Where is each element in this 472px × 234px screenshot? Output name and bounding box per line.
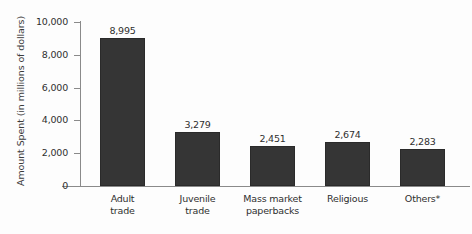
y-tick-label: 6,000 [0, 83, 68, 93]
x-axis-label-line: Others* [384, 193, 461, 205]
bar [400, 149, 445, 186]
bar [325, 142, 370, 186]
y-tick-mark [74, 55, 80, 56]
y-tick-mark [74, 22, 80, 23]
bar [100, 38, 145, 186]
x-axis-label-line: trade [159, 205, 236, 217]
y-axis-title: Amount Spent (in millions of dollars) [14, 6, 28, 196]
y-tick-label: 8,000 [0, 50, 68, 60]
x-axis-line [62, 186, 470, 187]
x-axis-label: Mass marketpaperbacks [234, 193, 311, 216]
y-tick-mark [74, 88, 80, 89]
y-tick-label: 10,000 [0, 17, 68, 27]
x-axis-label: Others* [384, 193, 461, 205]
x-axis-label-line: Juvenile [159, 193, 236, 205]
bar-value-label: 8,995 [88, 25, 157, 36]
bar-chart: Amount Spent (in millions of dollars) 10… [0, 0, 472, 234]
bar [250, 146, 295, 186]
bar-value-label: 2,674 [313, 129, 382, 140]
y-axis-line [80, 21, 81, 187]
y-tick-label: 0 [0, 181, 68, 191]
x-axis-label: Adulttrade [84, 193, 161, 216]
y-tick-mark [74, 186, 80, 187]
y-tick-mark [74, 120, 80, 121]
x-axis-label: Juveniletrade [159, 193, 236, 216]
bar-value-label: 2,451 [238, 133, 307, 144]
bar [175, 132, 220, 186]
x-axis-label-line: Religious [309, 193, 386, 205]
x-axis-label: Religious [309, 193, 386, 205]
y-tick-label: 4,000 [0, 115, 68, 125]
x-axis-label-line: trade [84, 205, 161, 217]
x-axis-label-line: Adult [84, 193, 161, 205]
bar-value-label: 2,283 [388, 136, 457, 147]
y-tick-label: 2,000 [0, 148, 68, 158]
x-axis-label-line: Mass market [234, 193, 311, 205]
y-tick-mark [74, 153, 80, 154]
x-axis-label-line: paperbacks [234, 205, 311, 217]
bar-value-label: 3,279 [163, 119, 232, 130]
